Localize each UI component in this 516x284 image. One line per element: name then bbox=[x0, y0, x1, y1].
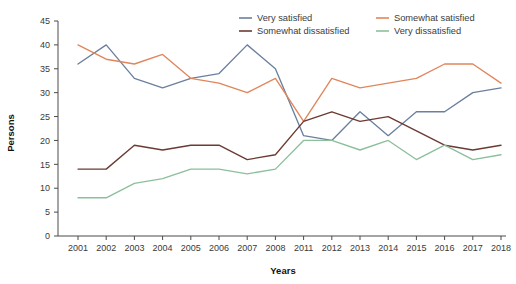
x-tick-label: 2011 bbox=[294, 243, 313, 253]
x-tick-label: 2003 bbox=[124, 243, 144, 253]
y-tick-label: 45 bbox=[40, 16, 50, 26]
y-axis-title: Persons bbox=[5, 114, 16, 152]
x-tick-label: 2007 bbox=[237, 243, 257, 253]
line-chart: 051015202530354045 200120022003200420052… bbox=[0, 0, 516, 284]
series-lines bbox=[78, 45, 501, 198]
series-line bbox=[78, 45, 501, 141]
legend-item-label: Very dissatisfied bbox=[394, 26, 461, 36]
x-tick-label: 2012 bbox=[322, 243, 342, 253]
chart-canvas: 051015202530354045 200120022003200420052… bbox=[0, 0, 516, 284]
x-tick-label: 2002 bbox=[96, 243, 116, 253]
series-line bbox=[78, 112, 501, 169]
legend-item-label: Somewhat satisfied bbox=[394, 13, 475, 23]
x-tick-label: 2001 bbox=[68, 243, 88, 253]
x-tick-label: 2018 bbox=[491, 243, 511, 253]
legend-item-label: Very satisfied bbox=[257, 13, 312, 23]
x-tick-label: 2016 bbox=[435, 243, 455, 253]
y-tick-label: 30 bbox=[40, 88, 50, 98]
y-tick-label: 20 bbox=[40, 136, 50, 146]
x-tick-label: 2017 bbox=[463, 243, 483, 253]
y-tick-label: 25 bbox=[40, 112, 50, 122]
legend-item-label: Somewhat dissatisfied bbox=[257, 26, 350, 36]
x-tick-label: 2008 bbox=[265, 243, 285, 253]
x-tick-label: 2013 bbox=[350, 243, 370, 253]
y-tick-label: 35 bbox=[40, 64, 50, 74]
x-tick-label: 2014 bbox=[378, 243, 398, 253]
y-tick-label: 5 bbox=[45, 207, 50, 217]
y-tick-label: 0 bbox=[45, 231, 50, 241]
series-line bbox=[78, 140, 501, 197]
x-axis-ticks: 2001200220032004200520062007200820112012… bbox=[68, 236, 511, 253]
x-axis-title: Years bbox=[270, 265, 295, 276]
x-tick-label: 2015 bbox=[406, 243, 426, 253]
y-axis-ticks: 051015202530354045 bbox=[40, 16, 58, 241]
x-tick-label: 2004 bbox=[153, 243, 173, 253]
x-tick-label: 2006 bbox=[209, 243, 229, 253]
chart-legend: Very satisfiedSomewhat satisfiedSomewhat… bbox=[239, 13, 475, 36]
series-line bbox=[78, 45, 501, 121]
y-tick-label: 10 bbox=[40, 183, 50, 193]
x-tick-label: 2005 bbox=[181, 243, 201, 253]
y-tick-label: 40 bbox=[40, 40, 50, 50]
y-tick-label: 15 bbox=[40, 160, 50, 170]
